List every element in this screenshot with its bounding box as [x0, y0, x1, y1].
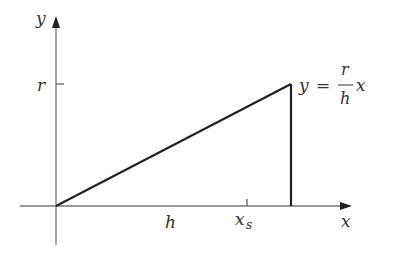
r-label: r [37, 75, 46, 95]
equation-denominator: h [340, 89, 350, 108]
xs-label: x s [235, 209, 252, 232]
y-axis-label: y [35, 8, 46, 28]
cone-line-diagram: y x r h x s y = r h x [0, 0, 393, 254]
x-axis [20, 202, 352, 210]
x-axis-arrow-icon [340, 202, 352, 210]
h-label: h [165, 212, 176, 232]
line-equation: y = r h x [298, 60, 366, 108]
equation-equals: = [316, 75, 330, 95]
xs-label-subscript: s [246, 218, 252, 232]
sloped-line [56, 84, 291, 206]
equation-numerator: r [341, 60, 350, 79]
xs-label-base: x [235, 209, 245, 229]
y-axis-arrow-icon [52, 16, 60, 28]
equation-lhs: y [298, 75, 309, 95]
equation-variable: x [356, 75, 366, 95]
y-axis [52, 16, 60, 245]
x-axis-label: x [341, 211, 351, 231]
